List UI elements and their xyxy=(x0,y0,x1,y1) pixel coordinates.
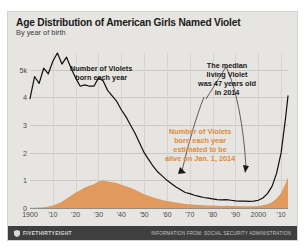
annotation-median-living-violet: The median living Violet was 47 years ol… xyxy=(198,61,256,97)
x-tick-label: '40 xyxy=(117,211,126,218)
x-tick-label: '60 xyxy=(162,211,171,218)
y-tick-label: 4 xyxy=(23,93,27,102)
arrowhead-alive-lower xyxy=(243,165,249,173)
page-title: Age Distribution of American Girls Named… xyxy=(16,17,289,28)
chart-subtitle: By year of birth xyxy=(16,29,289,37)
y-tick-label: 5k xyxy=(19,65,27,74)
shield-icon xyxy=(14,230,20,237)
x-tick-label: '80 xyxy=(208,211,217,218)
annotation-estimated-alive: Number of Violets born each year estimat… xyxy=(165,127,235,163)
gridline-y-0 xyxy=(30,208,288,209)
x-tick-label: '30 xyxy=(94,211,103,218)
brand-name: FIVETHIRTYEIGHT xyxy=(23,230,72,236)
x-tick-label: '50 xyxy=(140,211,149,218)
y-tick-label: 2 xyxy=(23,148,27,157)
x-tick-label: '70 xyxy=(185,211,194,218)
annotation-born-each-year: Number of Violets born each year xyxy=(70,64,132,82)
brand: FIVETHIRTYEIGHT xyxy=(14,230,72,237)
arrowhead-alive xyxy=(178,167,186,174)
x-tick-label: '10 xyxy=(277,211,286,218)
x-tick-label: '20 xyxy=(71,211,80,218)
plot-area: 012345k 1900'10'20'30'40'50'60'70'80'902… xyxy=(8,51,297,226)
y-tick-label: 1 xyxy=(23,176,27,185)
source-note: INFORMATION FROM: SOCIAL SECURITY ADMINI… xyxy=(151,231,291,236)
x-tick-label: '10 xyxy=(48,211,57,218)
chart-figure: Age Distribution of American Girls Named… xyxy=(8,12,297,240)
x-tick-label: 2000 xyxy=(251,211,267,218)
y-tick-label: 3 xyxy=(23,120,27,129)
chart-header: Age Distribution of American Girls Named… xyxy=(8,12,297,39)
chart-footer: FIVETHIRTYEIGHT INFORMATION FROM: SOCIAL… xyxy=(8,226,297,240)
x-tick-label: 1900 xyxy=(22,211,38,218)
x-tick-label: '90 xyxy=(231,211,240,218)
